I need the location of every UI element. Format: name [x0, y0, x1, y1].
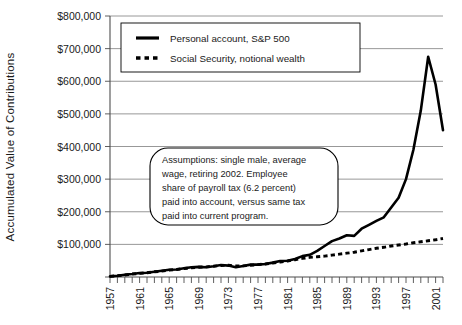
x-tick-label: 1981	[282, 287, 294, 311]
x-tick-label: 1985	[311, 287, 323, 311]
x-tick-label: 1977	[252, 287, 264, 311]
y-tick-label: $100,000	[57, 238, 101, 250]
y-tick-label: $700,000	[57, 43, 101, 55]
y-tick-label: $500,000	[57, 108, 101, 120]
legend-box	[121, 23, 360, 72]
x-tick-label: 1993	[370, 287, 382, 311]
y-axis-title: Accumulated Value of Contributions	[4, 53, 16, 242]
y-tick-label: $200,000	[57, 206, 101, 218]
y-tick-label: $800,000	[57, 10, 101, 22]
y-tick-label: $300,000	[57, 173, 101, 185]
x-tick-label: 1965	[163, 287, 175, 311]
y-tick-label: $400,000	[57, 141, 101, 153]
y-tick-label: $600,000	[57, 75, 101, 87]
x-tick-label: 1997	[400, 287, 412, 311]
assumptions-note-line-3: share of payroll tax (6.2 percent)	[162, 183, 296, 193]
assumptions-note-line-4: paid into account, versus same tax	[162, 197, 305, 207]
chart-container: Accumulated Value of Contributions $100,…	[0, 0, 462, 325]
assumptions-note-line-1: Assumptions: single male, average	[162, 155, 306, 165]
x-tick-label: 1989	[341, 287, 353, 311]
legend-label-personal-account: Personal account, S&P 500	[170, 33, 290, 44]
x-tick-label: 1961	[134, 287, 146, 311]
accumulated-value-line-chart: Accumulated Value of Contributions $100,…	[0, 0, 462, 325]
x-tick-label: 1957	[104, 287, 116, 311]
chart-legend: Personal account, S&P 500 Social Securit…	[121, 23, 360, 72]
x-tick-label: 2001	[430, 287, 442, 311]
assumptions-annotation: Assumptions: single male, average wage, …	[150, 148, 338, 225]
x-tick-label: 1969	[193, 287, 205, 311]
legend-label-social-security: Social Security, notional wealth	[170, 53, 305, 64]
assumptions-note-line-5: paid into current program.	[162, 211, 268, 221]
x-tick-label: 1973	[222, 287, 234, 311]
assumptions-note-line-2: wage, retiring 2002. Employee	[161, 169, 288, 179]
